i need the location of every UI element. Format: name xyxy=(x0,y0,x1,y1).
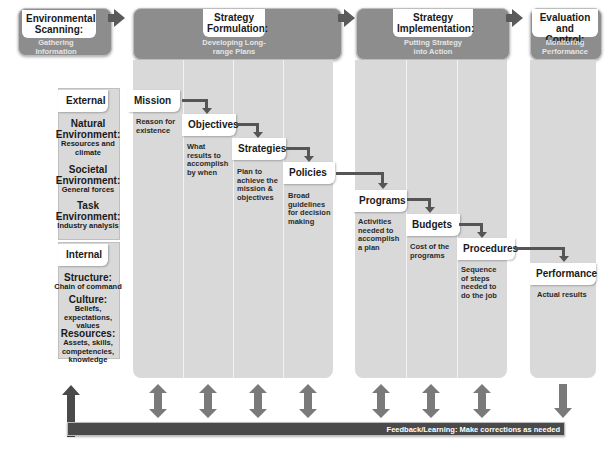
step-procedures-desc: Sequence of steps needed to do the job xyxy=(461,266,505,300)
double-arrow-icon xyxy=(149,384,167,418)
stage-title-implementation: Strategy Implementation: xyxy=(393,9,473,37)
flow-arrow-icon xyxy=(114,9,125,27)
step-objectives: Objectives xyxy=(182,114,236,136)
double-arrow-icon xyxy=(372,384,390,418)
flow-arrow-icon xyxy=(344,9,355,27)
step-policies-desc: Broad guidelines for decision making xyxy=(288,192,334,226)
step-programs: Programs xyxy=(353,190,407,212)
internal-item-culture: Culture: Beliefs, expectations, values xyxy=(52,294,124,331)
external-item-natural: Natural Environment: Resources and clima… xyxy=(52,118,124,157)
double-arrow-icon xyxy=(473,384,491,418)
flow-arrow-icon xyxy=(512,9,523,27)
stage-title-scanning: Environmental Scanning: xyxy=(22,10,96,38)
stage-title-formulation: Strategy Formulation: xyxy=(203,9,265,37)
connector-arrow-icon xyxy=(378,183,388,189)
step-strategies: Strategies xyxy=(232,138,286,160)
external-heading: External xyxy=(58,90,108,112)
stage-subtitle-evaluation: Monitoring Performance xyxy=(536,38,594,56)
external-item-societal: Societal Environment: General forces xyxy=(52,164,124,195)
stage-title-evaluation: Evaluation and Control: xyxy=(532,9,598,37)
step-programs-desc: Activities needed to accomplish a plan xyxy=(358,218,404,252)
internal-item-structure: Structure: Chain of command xyxy=(52,272,124,292)
stage-subtitle-formulation: Developing Long-range Plans xyxy=(196,38,272,56)
feedback-bar: Feedback/Learning: Make corrections as n… xyxy=(67,422,565,436)
internal-item-resources: Resources: Assets, skills, competencies,… xyxy=(52,328,124,365)
step-budgets-desc: Cost of the programs xyxy=(410,243,454,260)
double-arrow-icon xyxy=(249,384,267,418)
step-budgets: Budgets xyxy=(406,214,460,236)
double-arrow-icon xyxy=(299,384,317,418)
connector-arrow-icon xyxy=(425,207,435,213)
external-item-task: Task Environment: Industry analysis xyxy=(52,200,124,231)
double-arrow-icon xyxy=(199,384,217,418)
stage-subtitle-implementation: Putting Strategy into Action xyxy=(398,38,468,56)
stage-subtitle-scanning: Gathering Information xyxy=(26,38,86,56)
step-mission-desc: Reason for existence xyxy=(136,118,180,135)
down-arrow-icon xyxy=(554,384,572,418)
connector-arrow-icon xyxy=(559,256,569,262)
step-objectives-desc: What results to accomplish by when xyxy=(187,143,231,177)
step-performance-desc: Actual results xyxy=(537,291,593,300)
internal-heading: Internal xyxy=(58,244,108,266)
step-policies: Policies xyxy=(283,162,335,184)
step-procedures: Procedures xyxy=(457,238,515,260)
step-performance: Performance xyxy=(530,263,596,285)
step-mission: Mission xyxy=(128,90,180,112)
double-arrow-icon xyxy=(422,384,440,418)
step-strategies-desc: Plan to achieve the mission & objectives xyxy=(237,168,283,202)
evaluation-column-panel xyxy=(530,60,596,378)
